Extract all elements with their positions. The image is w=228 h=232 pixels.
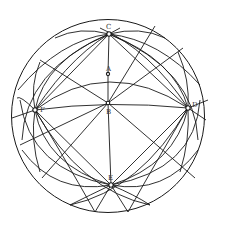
diag-ur-ll	[42, 48, 183, 178]
arc-d-1	[188, 100, 208, 108]
arc-c-3	[18, 34, 109, 90]
equator-f-d	[35, 104, 188, 110]
sphere-diagram: C A B F D E	[0, 0, 228, 232]
arc-c-2	[22, 34, 109, 140]
point-c	[107, 32, 111, 36]
label-c: C	[106, 23, 111, 31]
point-e	[109, 183, 113, 187]
arc-d-5	[128, 108, 188, 212]
sphere-svg: C A B F D E	[0, 0, 228, 232]
label-a: A	[105, 65, 112, 73]
arc-e-3	[22, 150, 111, 187]
label-f: F	[40, 106, 45, 114]
point-d	[186, 106, 190, 110]
arc-c-5	[109, 34, 198, 140]
label-d: D	[192, 101, 198, 109]
label-e: E	[108, 174, 113, 182]
label-b: B	[106, 108, 111, 116]
arc-c-7	[55, 31, 109, 38]
point-b	[106, 101, 110, 105]
point-f	[33, 108, 37, 112]
